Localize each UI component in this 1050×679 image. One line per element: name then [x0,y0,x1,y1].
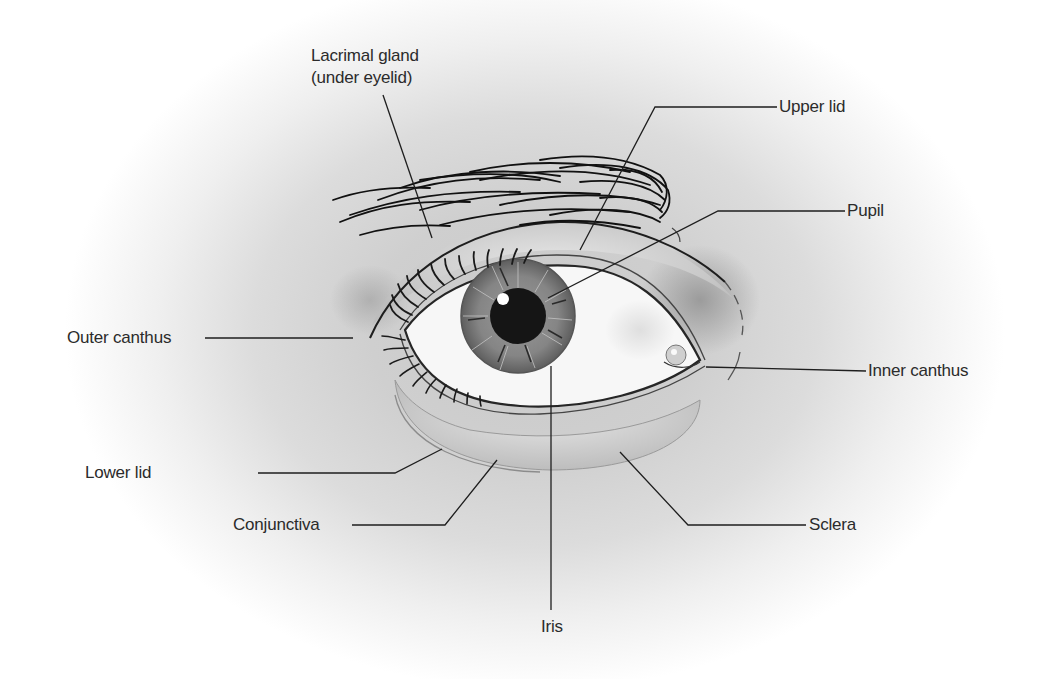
caruncle [666,345,686,365]
label-lacrimal-gland: Lacrimal gland [311,46,419,66]
label-iris: Iris [541,617,563,637]
leader-lacrimal-gland [383,95,432,238]
leader-lower-lid [258,449,442,473]
label-conjunctiva: Conjunctiva [233,515,320,535]
pupil-highlight [497,293,509,305]
label-upper-lid: Upper lid [779,97,845,117]
label-lower-lid: Lower lid [85,463,151,483]
eye-anatomy-diagram: Lacrimal gland (under eyelid) Upper lid … [0,0,1050,679]
leader-inner-canthus [706,367,866,371]
leader-sclera [620,452,806,525]
label-lacrimal-gland-sub: (under eyelid) [311,68,412,88]
label-pupil: Pupil [847,201,884,221]
eyebrow [333,156,670,235]
label-sclera: Sclera [809,515,856,535]
leader-conjunctiva [352,460,497,525]
label-outer-canthus: Outer canthus [67,328,171,348]
label-inner-canthus: Inner canthus [868,361,968,381]
